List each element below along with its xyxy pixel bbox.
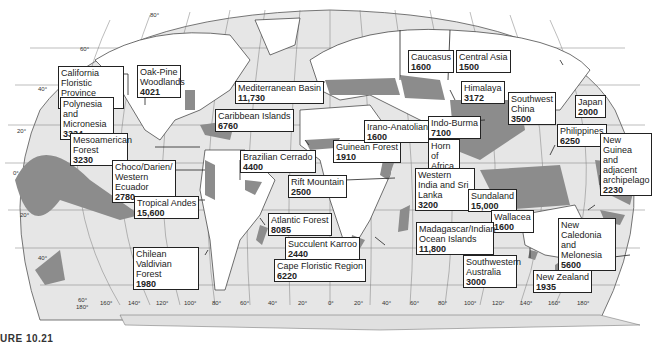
- hotspot-label-caucasus: Caucasus1600: [408, 50, 454, 73]
- lon-label: 100°: [464, 300, 476, 306]
- lon-label: 160°: [100, 300, 112, 306]
- lon-label: 60°: [410, 300, 419, 306]
- lat-label: 80°: [150, 12, 159, 18]
- hotspot-label-caribbean: Caribbean Islands6760: [215, 109, 294, 132]
- figure-caption: URE 10.21: [0, 333, 53, 343]
- lat-label: 60°: [78, 297, 87, 303]
- hotspot-label-southwest-china: Southwest China3500: [508, 92, 556, 125]
- hotspot-label-southwestern-australia: Southwestern Australia3000: [463, 255, 517, 288]
- hotspot-label-japan: Japan2000: [575, 95, 606, 118]
- lon-label: 120°: [156, 300, 168, 306]
- lat-label: 0°: [13, 170, 19, 176]
- lon-label: 140°: [520, 300, 532, 306]
- lat-label: 60°: [80, 46, 89, 52]
- hotspot-label-indo-burma: Indo-Burma7100: [428, 116, 481, 139]
- hotspot-label-mediterranean: Mediterranean Basin11,730: [235, 81, 324, 104]
- hotspot-label-cape-floristic: Cape Floristic Region6220: [274, 259, 366, 282]
- lon-label: 60°: [240, 300, 249, 306]
- lon-label: 180°: [76, 304, 88, 310]
- hotspot-label-new-guinea: New Guinea and adjacent archipelago2230: [600, 133, 652, 196]
- hotspot-label-wallacea: Wallacea1600: [491, 210, 534, 233]
- hotspot-label-new-caledonia: New Caledonia and Melonesia5600: [558, 218, 616, 271]
- hotspot-label-cerrado: Brazilian Cerrado4400: [240, 150, 316, 173]
- lon-label: 80°: [438, 300, 447, 306]
- hotspot-label-rift-mountain: Rift Mountain2500: [288, 175, 347, 198]
- hotspot-label-madagascar: Madagascar/Indian Ocean Islands11,800: [416, 222, 494, 255]
- hotspot-label-succulent-karroo: Succulent Karroo2440: [285, 237, 360, 260]
- hotspot-label-chilean: Chilean Valdivian Forest1980: [133, 247, 199, 290]
- hotspot-label-new-zealand: New Zealand1935: [533, 270, 592, 293]
- lon-label: 0°: [328, 300, 334, 306]
- lon-label: 40°: [382, 300, 391, 306]
- lon-label: 100°: [184, 300, 196, 306]
- lon-label: 140°: [128, 300, 140, 306]
- lat-label: 20°: [17, 128, 26, 134]
- lon-label: 120°: [492, 300, 504, 306]
- hotspot-label-sundaland: Sundaland15,000: [468, 189, 517, 212]
- lat-label: 20°: [20, 212, 29, 218]
- antarctica: [120, 315, 640, 330]
- hotspot-label-central-asia: Central Asia1500: [456, 50, 511, 73]
- hotspot-label-irano-anatolian: Irano-Anatolian1600: [364, 120, 431, 143]
- hotspot-label-tropical-andes: Tropical Andes15,600: [134, 196, 199, 219]
- lon-label: 20°: [354, 300, 363, 306]
- lon-label: 40°: [268, 300, 277, 306]
- hotspot-label-western-india: Western India and Sri Lanka3200: [415, 168, 475, 211]
- hotspot-label-guinean: Guinean Forest1910: [333, 140, 401, 163]
- lon-label: 80°: [212, 300, 221, 306]
- lon-label: 160°: [548, 300, 560, 306]
- lon-label: 20°: [298, 300, 307, 306]
- hotspot-label-himalaya: Himalaya3172: [461, 81, 505, 104]
- hotspot-label-oak-pine: Oak-Pine Woodlands4021: [137, 65, 181, 98]
- lon-label: 180°: [577, 300, 589, 306]
- hotspot-label-atlantic-forest: Atlantic Forest8085: [268, 213, 332, 236]
- lat-label: 40°: [38, 255, 47, 261]
- lat-label: 40°: [38, 86, 47, 92]
